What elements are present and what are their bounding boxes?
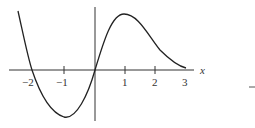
tick-label-2: 2: [152, 76, 158, 88]
tick-label-3: 3: [182, 76, 188, 88]
function-curve: [18, 11, 186, 117]
tick-label-neg2: −2: [22, 76, 34, 88]
tick-label-1: 1: [122, 76, 128, 88]
tick-label-neg1: −1: [56, 76, 68, 88]
x-axis-label: x: [199, 64, 205, 76]
function-plot: −2 −1 1 2 3 x: [0, 0, 255, 128]
